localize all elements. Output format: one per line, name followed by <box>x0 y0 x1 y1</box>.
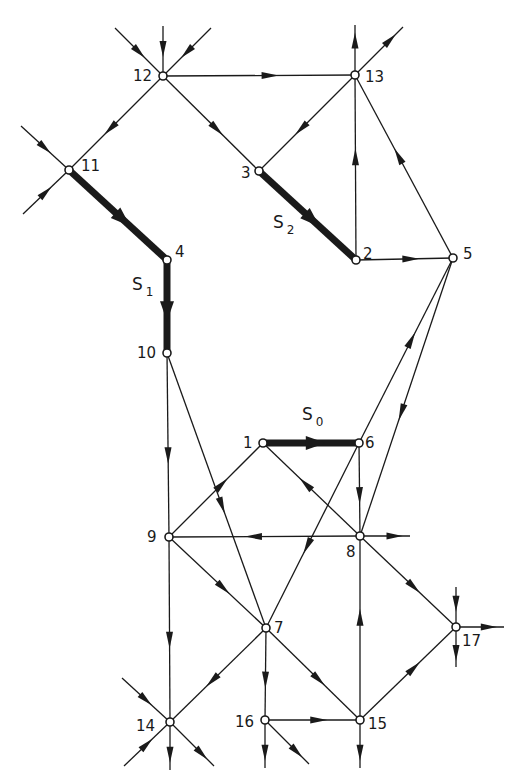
arrowhead-icon <box>356 487 363 504</box>
path-label-s1: S1 <box>132 274 153 299</box>
node-label: 8 <box>346 543 356 561</box>
arrowhead-icon <box>160 301 174 321</box>
edge-line <box>167 353 169 537</box>
node-11: 11 <box>65 157 100 175</box>
arrowhead-icon <box>399 403 408 420</box>
path-label-s2: S2 <box>273 212 294 237</box>
node-label: 3 <box>241 164 251 182</box>
stub-11-in <box>23 170 69 214</box>
node-circle-icon <box>159 72 167 80</box>
arrowhead-icon <box>306 436 326 450</box>
edge-line <box>169 536 360 537</box>
arrowhead-icon <box>216 496 225 513</box>
node-1: 1 <box>243 434 267 452</box>
node-15: 15 <box>356 715 387 733</box>
edge-9-to-7 <box>169 537 266 628</box>
node-4: 4 <box>163 243 185 264</box>
stub-17-in <box>453 587 460 627</box>
node-circle-icon <box>261 716 269 724</box>
edge-5-to-13 <box>355 75 453 258</box>
edge-8-to-1 <box>263 443 360 536</box>
node-label: 6 <box>365 434 375 452</box>
arrowhead-icon <box>262 72 279 79</box>
node-circle-icon <box>449 254 457 262</box>
path-label-s0: S0 <box>302 404 323 429</box>
node-circle-icon <box>65 166 73 174</box>
arrowhead-icon <box>402 256 419 263</box>
arrowhead-icon <box>481 624 497 631</box>
edge-6-to-5 <box>359 258 453 443</box>
external-stubs-layer <box>21 25 504 770</box>
edge-9-to-14 <box>166 537 173 722</box>
edge-10-to-9 <box>165 353 172 537</box>
stub-8-out <box>360 533 410 540</box>
node-label: 11 <box>81 157 100 175</box>
node-13: 13 <box>351 68 384 86</box>
node-circle-icon <box>351 71 359 79</box>
edge-line <box>359 258 453 443</box>
node-label: 15 <box>368 715 387 733</box>
edge-4-to-10 <box>160 260 174 353</box>
edge-line <box>169 537 170 722</box>
arrowhead-icon <box>303 537 314 554</box>
arrowhead-icon <box>453 645 460 661</box>
edge-8-to-9 <box>169 533 360 540</box>
node-circle-icon <box>163 349 171 357</box>
node-circle-icon <box>259 439 267 447</box>
stub-17-out <box>456 624 504 631</box>
stub-17-out <box>453 627 460 667</box>
node-16: 16 <box>235 713 269 731</box>
edge-line <box>163 75 355 76</box>
edge-line <box>355 75 453 258</box>
arrowhead-icon <box>167 747 174 763</box>
node-label: 12 <box>133 67 152 85</box>
stub-13-out <box>352 25 359 75</box>
arrowhead-icon <box>310 717 327 724</box>
directed-graph-diagram: 1234567891011121314151617 S1S2S0 <box>0 0 528 781</box>
edge-line <box>355 75 356 260</box>
node-circle-icon <box>255 167 263 175</box>
stub-16-out <box>262 720 269 768</box>
arrowhead-icon <box>394 149 405 166</box>
arrowhead-icon <box>262 672 269 689</box>
arrowhead-icon <box>262 745 269 761</box>
arrowhead-icon <box>245 533 262 540</box>
arrowhead-icon <box>166 632 173 649</box>
node-label: 2 <box>363 245 373 263</box>
edge-7-to-16 <box>262 628 269 720</box>
edge-7-to-14 <box>170 628 266 722</box>
node-circle-icon <box>262 624 270 632</box>
stub-16-out <box>265 720 309 764</box>
node-circle-icon <box>166 718 174 726</box>
node-3: 3 <box>241 164 263 182</box>
arrowhead-icon <box>404 332 415 349</box>
stub-12-in <box>160 26 167 76</box>
edge-7-to-15 <box>266 628 360 720</box>
stub-15-out <box>357 720 364 768</box>
node-label: 1 <box>243 434 253 452</box>
node-5: 5 <box>449 245 473 263</box>
edge-6-to-8 <box>356 443 363 536</box>
edge-9-to-1 <box>169 443 263 537</box>
node-label: 7 <box>274 619 284 637</box>
node-circle-icon <box>356 532 364 540</box>
arrowhead-icon <box>387 533 403 540</box>
stub-14-out <box>167 722 174 770</box>
edge-8-to-17 <box>360 536 456 627</box>
arrowhead-icon <box>357 745 364 761</box>
node-label: 4 <box>175 243 185 261</box>
node-circle-icon <box>355 439 363 447</box>
nodes-layer: 1234567891011121314151617 <box>65 67 481 735</box>
node-label: 10 <box>137 344 156 362</box>
stub-14-in <box>122 678 170 722</box>
edge-12-to-11 <box>69 76 163 170</box>
node-circle-icon <box>452 623 460 631</box>
arrowhead-icon <box>352 33 359 49</box>
arrowhead-icon <box>165 447 172 464</box>
node-12: 12 <box>133 67 167 85</box>
arrowhead-icon <box>352 148 359 165</box>
node-circle-icon <box>163 256 171 264</box>
edge-12-to-3 <box>163 76 259 171</box>
edge-11-to-4 <box>69 170 167 260</box>
node-label: 14 <box>136 717 155 735</box>
